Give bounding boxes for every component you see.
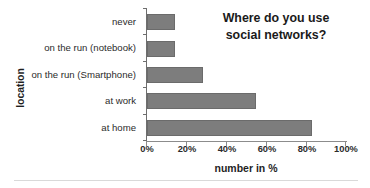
y-axis-tick-label: at home	[26, 115, 141, 141]
x-axis-tick-labels: 0% 20% 40% 60% 80% 100%	[146, 144, 346, 158]
bar-slot	[147, 88, 346, 114]
bar	[147, 41, 175, 57]
y-axis-tick-label: at work	[26, 88, 141, 114]
x-axis-tick-label: 20%	[178, 144, 197, 154]
bottom-divider	[14, 180, 358, 181]
y-axis-tick-label: on the run (notebook)	[26, 35, 141, 61]
x-axis-tick-label: 40%	[218, 144, 237, 154]
bar	[147, 14, 175, 30]
chart-title-line-1: Where do you use	[196, 10, 356, 27]
y-axis-tick-label: never	[26, 9, 141, 35]
x-axis-tick-label: 80%	[298, 144, 317, 154]
bar-slot	[147, 62, 346, 88]
y-axis-category-labels: never on the run (notebook) on the run (…	[26, 9, 141, 141]
y-axis-title-text: location	[14, 68, 26, 107]
bar	[147, 120, 312, 136]
chart-title-line-2: social networks?	[196, 27, 356, 44]
x-axis-tick-label: 60%	[258, 144, 277, 154]
x-axis-title: number in %	[146, 162, 346, 174]
bar-chart-figure: location never on the run (notebook) on …	[0, 0, 370, 188]
x-axis-tick-label: 0%	[140, 144, 153, 154]
x-axis-tick-label: 100%	[334, 144, 358, 154]
chart-title: Where do you use social networks?	[196, 10, 356, 44]
bar	[147, 93, 256, 109]
x-axis-line	[146, 141, 347, 142]
y-axis-tick-label: on the run (Smartphone)	[26, 62, 141, 88]
bar	[147, 67, 203, 83]
bar-slot	[147, 115, 346, 141]
